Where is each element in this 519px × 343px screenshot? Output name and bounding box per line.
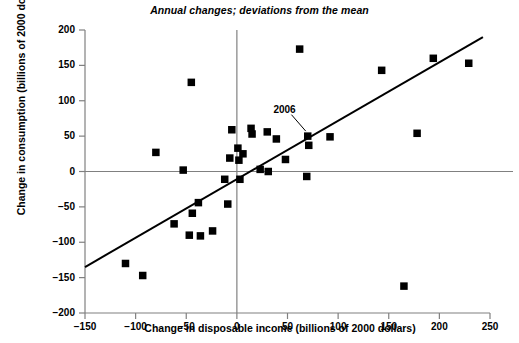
data-point bbox=[209, 227, 217, 235]
y-axis-label: Change in consumption (billions of 2000 … bbox=[15, 0, 27, 215]
data-point bbox=[228, 126, 236, 134]
data-point bbox=[430, 55, 438, 63]
data-point bbox=[256, 166, 264, 174]
data-point bbox=[152, 149, 160, 157]
data-point bbox=[170, 220, 178, 228]
data-point bbox=[139, 272, 147, 280]
y-axis-label-wrapper: Change in consumption (billions of 2000 … bbox=[11, 0, 29, 249]
data-point bbox=[326, 133, 334, 141]
data-point bbox=[282, 156, 290, 164]
data-point bbox=[264, 128, 272, 136]
data-point bbox=[304, 132, 312, 140]
data-point bbox=[186, 231, 194, 239]
reference-lines-group bbox=[85, 30, 513, 313]
plot-canvas bbox=[0, 0, 519, 343]
y-tick-label: −150 bbox=[41, 272, 75, 283]
annotation-leader-group bbox=[291, 115, 305, 131]
data-point bbox=[305, 142, 313, 150]
y-tick-label: 100 bbox=[41, 95, 75, 106]
y-tick-label: −100 bbox=[41, 236, 75, 247]
data-point bbox=[400, 282, 408, 290]
data-point bbox=[413, 130, 421, 138]
data-point bbox=[239, 150, 247, 158]
y-tick-label: 50 bbox=[41, 130, 75, 141]
data-point bbox=[296, 45, 304, 53]
data-point bbox=[188, 79, 196, 87]
data-points-group bbox=[122, 45, 473, 290]
data-point bbox=[224, 200, 232, 208]
y-tick-label: −200 bbox=[41, 307, 75, 318]
x-axis-label: Change in disposable income (billions of… bbox=[60, 322, 500, 334]
y-tick-label: 200 bbox=[41, 24, 75, 35]
annotation-label-2006: 2006 bbox=[273, 104, 295, 115]
data-point bbox=[221, 176, 229, 184]
data-point bbox=[179, 166, 187, 174]
data-point bbox=[265, 168, 273, 176]
y-tick-label: 150 bbox=[41, 59, 75, 70]
data-point bbox=[189, 209, 197, 217]
data-point bbox=[303, 173, 311, 181]
data-point bbox=[273, 135, 281, 143]
data-point bbox=[248, 130, 256, 138]
data-point bbox=[122, 260, 130, 268]
data-point bbox=[197, 232, 205, 240]
y-tick-label: 0 bbox=[41, 166, 75, 177]
data-point bbox=[236, 176, 244, 184]
trendline-group bbox=[85, 37, 483, 267]
data-point bbox=[378, 67, 386, 75]
data-point bbox=[465, 60, 473, 68]
y-tick-label: −50 bbox=[41, 201, 75, 212]
scatter-chart-figure: Annual changes; deviations from the mean… bbox=[0, 0, 519, 343]
data-point bbox=[226, 154, 234, 162]
data-point bbox=[195, 199, 203, 207]
